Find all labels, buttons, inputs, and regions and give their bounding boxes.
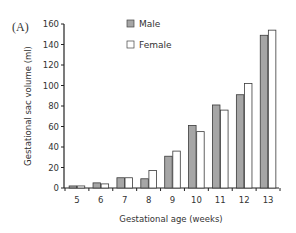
bar-female-week-7: [125, 178, 132, 188]
y-tick-label: 20: [48, 163, 59, 173]
bar-female-week-10: [197, 132, 205, 188]
bar-male-week-6: [93, 183, 101, 188]
bar-chart: (A) Gestational sac volume (ml) 02040608…: [0, 0, 296, 233]
x-tick-label: 5: [74, 195, 79, 205]
x-tick-label: 9: [170, 195, 175, 205]
bars-group: [69, 30, 276, 188]
x-tick-label: 7: [122, 195, 127, 205]
bar-female-week-5: [77, 186, 85, 188]
bar-male-week-8: [141, 179, 149, 188]
legend-item-female: Female: [127, 40, 172, 50]
bar-female-week-11: [221, 110, 229, 188]
bar-female-week-8: [149, 171, 157, 188]
x-axis-title: Gestational age (weeks): [119, 214, 222, 224]
legend-label-female: Female: [139, 40, 172, 50]
legend: Male Female: [127, 19, 172, 50]
y-axis: 020406080100120140160: [43, 19, 64, 193]
y-tick-label: 80: [48, 101, 59, 111]
legend-label-male: Male: [139, 19, 161, 29]
x-tick-label: 10: [191, 195, 202, 205]
bar-male-week-11: [212, 105, 220, 188]
bar-male-week-13: [260, 35, 268, 188]
y-tick-label: 0: [54, 183, 59, 193]
y-tick-label: 40: [48, 142, 59, 152]
x-tick-label: 11: [215, 195, 226, 205]
bar-female-week-13: [268, 30, 276, 188]
female-swatch-icon: [127, 41, 134, 48]
bar-male-week-9: [165, 156, 173, 188]
bar-female-week-12: [244, 83, 252, 188]
x-axis: 5678910111213: [64, 188, 280, 205]
bar-male-week-10: [189, 125, 197, 188]
legend-item-male: Male: [127, 19, 161, 29]
bar-male-week-5: [69, 186, 77, 188]
bar-female-week-6: [101, 184, 109, 188]
y-tick-label: 160: [43, 19, 59, 29]
y-tick-label: 120: [43, 60, 59, 70]
bar-male-week-7: [117, 178, 125, 188]
male-swatch-icon: [127, 20, 134, 27]
panel-label: (A): [12, 20, 29, 34]
x-tick-label: 12: [239, 195, 250, 205]
y-tick-label: 140: [43, 40, 59, 50]
x-tick-label: 6: [98, 195, 103, 205]
x-tick-label: 13: [263, 195, 274, 205]
y-axis-title: Gestational sac volume (ml): [23, 46, 33, 166]
bar-male-week-12: [236, 95, 244, 188]
y-tick-label: 100: [43, 81, 59, 91]
y-tick-label: 60: [48, 122, 59, 132]
bar-female-week-9: [173, 151, 181, 188]
x-tick-label: 8: [146, 195, 151, 205]
